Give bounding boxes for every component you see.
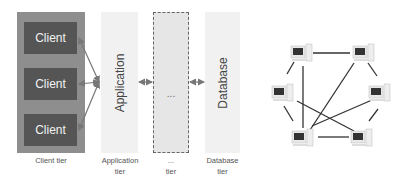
network-edges xyxy=(284,53,378,137)
computer-icon xyxy=(351,129,372,146)
computer-icon xyxy=(292,129,313,146)
computer-icon xyxy=(291,44,312,61)
peer-network-diagram xyxy=(0,0,411,180)
computer-icons xyxy=(272,44,390,146)
computer-icon xyxy=(272,84,293,101)
computer-icon xyxy=(369,84,390,101)
computer-icon xyxy=(353,44,374,61)
